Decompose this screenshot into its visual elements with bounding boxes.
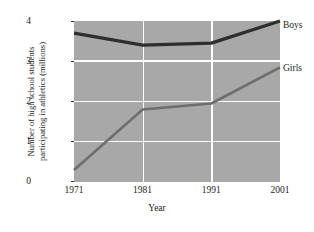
x-axis-tick-label-2001: 2001	[260, 185, 300, 195]
x-axis-tick-label-1981: 1981	[123, 185, 163, 195]
y-axis-label-line-2: participating in athletics (millions)	[37, 21, 48, 182]
series-lines	[74, 21, 280, 182]
line-chart-figure: 4 3 2 1 0 Number of high school students…	[0, 0, 314, 232]
x-axis-tick-label-1991: 1991	[191, 185, 231, 195]
x-axis-tick-label-1971: 1971	[54, 185, 94, 195]
y-axis-label: Number of high school students participa…	[26, 0, 56, 21]
x-axis-label: Year	[0, 203, 314, 213]
plot-area	[74, 21, 280, 182]
y-axis-label-line-1: Number of high school students	[26, 21, 37, 182]
series-label-boys: Boys	[283, 20, 303, 30]
series-line-boys	[74, 21, 280, 45]
series-label-girls: Girls	[283, 63, 302, 73]
series-line-girls	[74, 67, 280, 170]
